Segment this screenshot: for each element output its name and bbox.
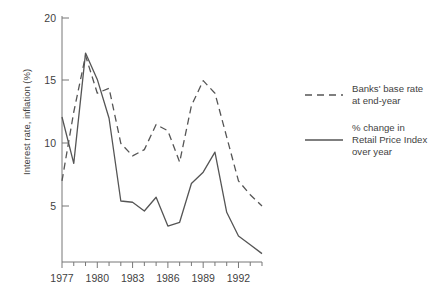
x-tick-label-1986: 1986 bbox=[156, 272, 180, 284]
x-tick-label-1980: 1980 bbox=[86, 272, 110, 284]
x-tick-label-1983: 1983 bbox=[121, 272, 145, 284]
legend-label-rpi-line2: Retail Price Index bbox=[352, 134, 427, 145]
legend-label-rpi-line3: over year bbox=[352, 146, 393, 157]
legend-label-base-rate-line2: at end-year bbox=[352, 95, 401, 106]
x-tick-label-1992: 1992 bbox=[227, 272, 251, 284]
y-tick-label-10: 10 bbox=[44, 137, 56, 149]
y-tick-label-15: 15 bbox=[44, 74, 56, 86]
y-axis-label: Interest rate, inflation (%) bbox=[21, 69, 32, 175]
line-chart: Interest rate, inflation (%) 20 15 10 5 … bbox=[0, 0, 429, 302]
chart-container: Interest rate, inflation (%) 20 15 10 5 … bbox=[0, 0, 429, 302]
x-tick-label-1989: 1989 bbox=[191, 272, 215, 284]
legend-label-rpi-line1: % change in bbox=[352, 122, 405, 133]
y-tick-label-20: 20 bbox=[44, 12, 56, 24]
x-tick-label-1977: 1977 bbox=[50, 272, 74, 284]
legend-label-base-rate-line1: Banks' base rate bbox=[352, 83, 423, 94]
y-tick-label-5: 5 bbox=[50, 200, 56, 212]
